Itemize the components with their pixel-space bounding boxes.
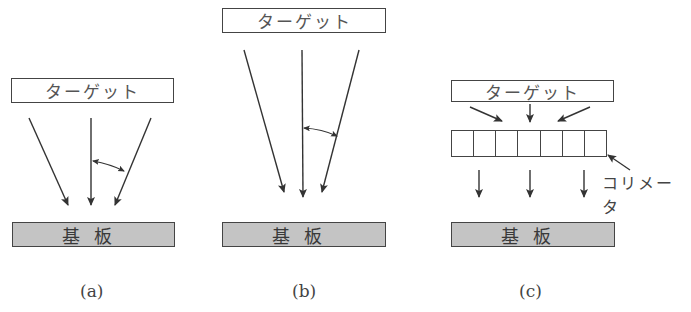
- oblique-flux-arrow-left: [29, 118, 68, 205]
- panel-a-target: ターゲット: [11, 78, 174, 103]
- oblique-flux-arrow-left: [244, 50, 284, 192]
- oblique-flux-arrow-right: [322, 50, 359, 192]
- collimator: [451, 130, 607, 157]
- incoming-arrow-left: [470, 107, 502, 121]
- panel-c-substrate: 基板: [451, 222, 615, 247]
- collimator-cell: [474, 131, 496, 156]
- normal-flux-arrow: [302, 50, 303, 197]
- substrate-label: 基板: [62, 222, 126, 248]
- panel-b-target: ターゲット: [222, 8, 386, 33]
- incoming-arrow-right: [558, 107, 590, 121]
- substrate-label: 基板: [272, 222, 336, 248]
- panel-a-caption: (a): [80, 281, 103, 301]
- angle-arc-icon: [304, 128, 337, 136]
- collimator-cell: [496, 131, 518, 156]
- panel-c-target: ターゲット: [451, 80, 614, 102]
- panel-a-arrows: [29, 118, 151, 205]
- angle-arc-icon: [93, 161, 124, 171]
- panel-c-caption: (c): [519, 281, 542, 301]
- collimator-cell: [585, 131, 606, 156]
- target-label: ターゲット: [45, 78, 140, 103]
- collimator-cell: [452, 131, 474, 156]
- panel-b-arrows: [244, 50, 359, 197]
- target-label: ターゲット: [257, 8, 352, 33]
- collimator-cell: [541, 131, 563, 156]
- panel-b-caption: (b): [292, 281, 316, 301]
- substrate-label: 基板: [501, 222, 565, 248]
- panel-b-substrate: 基板: [222, 222, 386, 247]
- panel-a-substrate: 基板: [12, 222, 175, 247]
- collimator-cell: [563, 131, 585, 156]
- collimator-label: コリメータ: [602, 170, 691, 218]
- collimator-leader-arrow: [608, 155, 630, 170]
- oblique-flux-arrow-right: [115, 118, 151, 205]
- collimator-cell: [518, 131, 540, 156]
- target-label: ターゲット: [485, 79, 580, 104]
